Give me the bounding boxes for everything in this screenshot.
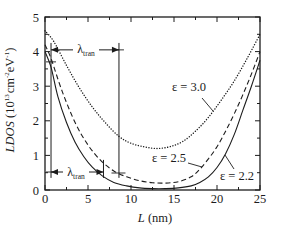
y-axis-unit-part: (10 — [3, 101, 17, 121]
y-tick-label: 0 — [33, 184, 39, 198]
y-tick-label: 2 — [33, 114, 39, 128]
x-tick-label: 25 — [254, 192, 267, 206]
curve-label-eps-2-2: ε = 2.2 — [220, 169, 254, 183]
x-tick-label: 20 — [211, 192, 224, 206]
x-axis-variable: L — [137, 211, 145, 225]
y-axis-unit-part: ) — [3, 48, 17, 52]
y-tick-label: 3 — [33, 80, 39, 94]
y-tick-label: 1 — [33, 149, 39, 163]
y-axis-exponent: 13 — [3, 94, 11, 102]
x-axis-title: L (nm) — [137, 211, 172, 225]
x-tick-label: 10 — [125, 192, 138, 206]
x-tick-label: 0 — [42, 192, 48, 206]
y-axis-unit-part: eV — [3, 58, 17, 73]
lambda-subscript: tran — [73, 172, 85, 181]
curve-label-eps-2-5: ε = 2.5 — [152, 151, 186, 165]
x-axis-unit: (nm) — [145, 211, 172, 225]
ldos-chart: 0 1 2 3 4 5 0 5 10 15 20 25 L (nm) LDOS … — [0, 0, 283, 233]
x-tick-label: 15 — [168, 192, 181, 206]
y-tick-label: 5 — [33, 11, 39, 25]
y-tick-label: 4 — [33, 45, 40, 59]
lambda-subscript: tran — [83, 49, 95, 58]
x-tick-label: 5 — [85, 192, 91, 206]
y-axis-quantity: LDOS — [3, 120, 17, 153]
y-axis-unit-part: cm — [3, 78, 17, 94]
curve-label-eps-3-0: ε = 3.0 — [172, 80, 206, 94]
